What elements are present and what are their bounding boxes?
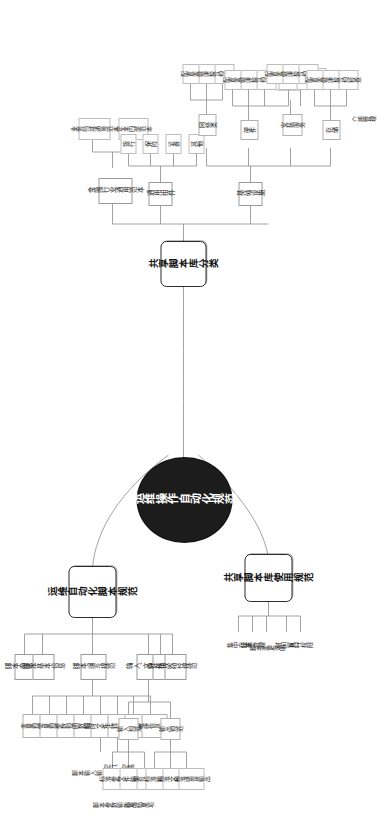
label: 介质管理 bbox=[351, 115, 375, 124]
label: 执行权限 bbox=[288, 641, 312, 650]
node-hardware[interactable]: 硬件 bbox=[240, 120, 258, 140]
branch-shared-usage-node[interactable]: 共享脚本库使用规范 bbox=[244, 554, 292, 602]
label: 银行 bbox=[122, 140, 134, 149]
node-storage-path-spec[interactable]: 存放路径规范 bbox=[164, 654, 186, 680]
node-exec-permission[interactable]: 执行权限 bbox=[290, 632, 310, 658]
label: 输出结果项 bbox=[123, 801, 153, 810]
note-script-param-input: 脚本参数输入项 bbox=[100, 792, 126, 818]
node-output-spec[interactable]: 输出规范 bbox=[160, 718, 180, 740]
node-media-management[interactable]: 介质管理 bbox=[352, 108, 374, 130]
node-insurance[interactable]: 保险 bbox=[142, 134, 158, 154]
label: 硬件 bbox=[243, 126, 255, 135]
label: 通用组件 bbox=[146, 189, 174, 199]
node-install-service[interactable]: 安装服务 bbox=[282, 114, 302, 136]
node-common-component[interactable]: 通用组件 bbox=[148, 182, 172, 206]
label: 存储 bbox=[325, 126, 337, 135]
node-securities[interactable]: 证券 bbox=[165, 134, 181, 154]
label: 输出规范 bbox=[158, 725, 182, 734]
label: 脚本基本信息 bbox=[22, 662, 64, 672]
label: 输入规范 bbox=[116, 725, 140, 734]
label: 安装服务 bbox=[280, 121, 304, 130]
branch-script-spec-label: 运维自动化脚本规范 bbox=[47, 585, 137, 599]
node-standard-error-output[interactable]: 标准错误输出 bbox=[178, 768, 204, 790]
label: 其他 bbox=[190, 140, 202, 149]
label: 存放路径规范 bbox=[154, 662, 196, 672]
mindmap-rotated-layer: 运维操作自动化规范 运维自动化脚本规范 脚本命名规范 脚本基本信息 脚本编写规范… bbox=[0, 0, 383, 830]
node-bank[interactable]: 银行 bbox=[120, 134, 136, 154]
label: 脚本编写规范 bbox=[72, 662, 114, 672]
node-input-spec[interactable]: 输入规范 bbox=[118, 718, 138, 740]
label: 合规检查 bbox=[336, 76, 360, 85]
node-network-class[interactable]: 网络类 bbox=[198, 114, 216, 136]
branch-shared-usage-label: 共享脚本库使用规范 bbox=[223, 571, 313, 585]
center-node-label: 运维操作自动化规范 bbox=[132, 492, 236, 508]
branch-script-spec-node[interactable]: 运维自动化脚本规范 bbox=[68, 566, 116, 618]
label: 标准错误输出 bbox=[173, 775, 209, 784]
label: 网络类 bbox=[198, 121, 216, 130]
branch-shared-category-node[interactable]: 共享脚本库分类 bbox=[160, 241, 206, 287]
label: 业务领域通用范本 bbox=[70, 125, 118, 134]
node-storage-class[interactable]: 存储 bbox=[322, 120, 340, 140]
node-infrastructure[interactable]: 基础设施 bbox=[238, 182, 262, 206]
label: 企业内部范本 bbox=[115, 125, 151, 134]
note-output-result: 输出结果项 bbox=[126, 792, 150, 818]
center-node[interactable]: 运维操作自动化规范 bbox=[137, 458, 231, 542]
label: 保险 bbox=[144, 140, 156, 149]
branch-shared-category-label: 共享脚本库分类 bbox=[148, 257, 218, 271]
mindmap-canvas: 运维操作自动化规范 运维自动化脚本规范 脚本命名规范 脚本基本信息 脚本编写规范… bbox=[0, 0, 383, 830]
label: 证券 bbox=[167, 140, 179, 149]
node-finance-common-template[interactable]: 金融行业通用范本 bbox=[98, 178, 132, 204]
node-script-writing-spec[interactable]: 脚本编写规范 bbox=[80, 654, 106, 680]
node-sto-compliance-check[interactable]: 合规检查 bbox=[338, 70, 358, 90]
node-business-domain-template[interactable]: 业务领域通用范本 bbox=[78, 118, 110, 140]
node-other[interactable]: 其他 bbox=[188, 134, 204, 154]
label: 基础设施 bbox=[236, 189, 264, 199]
node-script-basic-info[interactable]: 脚本基本信息 bbox=[32, 654, 54, 680]
label: 金融行业通用范本 bbox=[87, 186, 143, 196]
